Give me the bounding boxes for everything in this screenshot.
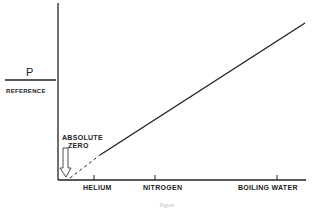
annotation-absolute: ABSOLUTE [62,134,103,141]
measured-line [100,23,305,155]
x-tick-nitrogen: NITROGEN [143,184,182,191]
chart-canvas [0,0,313,209]
annotation-zero: ZERO [68,142,89,149]
extrapolated-line [70,155,100,178]
arrow-icon [60,148,71,177]
x-tick-boiling-water: BOILING WATER [238,184,298,191]
x-tick-helium: HELIUM [83,184,112,191]
y-label-denominator: REFERENCE [6,88,46,94]
figure-caption: Figure [160,202,174,208]
y-label-numerator: P [26,66,33,78]
